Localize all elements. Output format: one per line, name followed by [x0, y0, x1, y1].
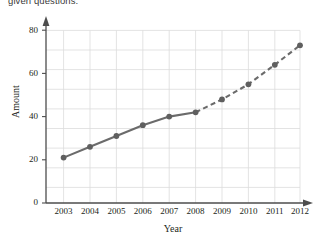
y-axis-arrow-icon [43, 16, 50, 26]
horizontal-gridlines [46, 30, 300, 187]
data-point [246, 81, 252, 87]
data-point [61, 155, 67, 161]
y-tick-label-0: 0 [16, 197, 38, 207]
data-point [140, 122, 146, 128]
data-point [297, 42, 303, 48]
data-point [219, 97, 225, 103]
data-point [272, 62, 278, 68]
data-point [87, 144, 93, 150]
data-point [114, 133, 120, 139]
y-tick-label-80: 80 [16, 25, 38, 35]
data-line-dashed [196, 45, 300, 112]
y-tick-label-20: 20 [16, 154, 38, 164]
data-point-markers [61, 42, 303, 160]
line-chart-figure: 0 20 40 60 80 2003 2004 2005 2006 2007 2… [0, 0, 318, 243]
data-point [166, 114, 172, 120]
x-axis-title: Year [46, 223, 300, 234]
x-tick-label-2012: 2012 [285, 206, 315, 216]
data-line-solid [64, 112, 196, 157]
vertical-gridlines [64, 30, 300, 203]
data-point [193, 109, 199, 115]
y-axis-title: Amount [10, 67, 21, 137]
